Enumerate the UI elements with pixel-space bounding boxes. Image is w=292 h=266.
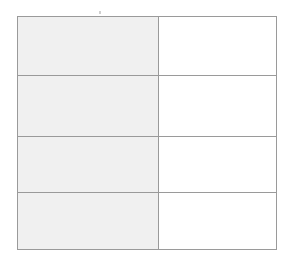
- table-cell-value[interactable]: [159, 193, 277, 250]
- table-cell-label[interactable]: [18, 17, 159, 76]
- table-row: [18, 76, 277, 137]
- cell-text: [159, 193, 276, 199]
- cell-text: [18, 17, 158, 23]
- cell-text: [159, 76, 276, 82]
- cell-text: [18, 193, 158, 199]
- table-cell-label[interactable]: [18, 137, 159, 193]
- speck-mark-icon: [99, 11, 101, 14]
- table-row: [18, 17, 277, 76]
- table-cell-label[interactable]: [18, 193, 159, 250]
- cell-text: [159, 137, 276, 143]
- table-row: [18, 193, 277, 250]
- cell-text: [159, 17, 276, 23]
- table-cell-value[interactable]: [159, 17, 277, 76]
- table-cell-value[interactable]: [159, 76, 277, 137]
- cell-text: [18, 76, 158, 82]
- two-column-table: [17, 16, 277, 250]
- table-body: [18, 17, 277, 250]
- page-canvas: [0, 0, 292, 266]
- table-row: [18, 137, 277, 193]
- cell-text: [18, 137, 158, 143]
- table-cell-value[interactable]: [159, 137, 277, 193]
- table-cell-label[interactable]: [18, 76, 159, 137]
